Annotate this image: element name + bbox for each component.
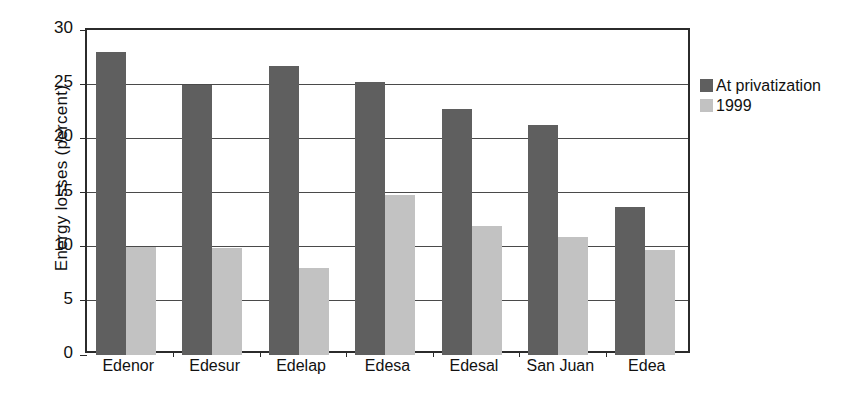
y-axis-tick-label: 30 [29, 19, 73, 36]
bar-edesur-at-privatization [182, 85, 212, 355]
bar-edesal-at-privatization [442, 109, 472, 355]
gridline [87, 138, 688, 139]
bar-edelap-1999 [299, 268, 329, 355]
bar-edelap-at-privatization [269, 66, 299, 355]
x-axis-tick [173, 351, 174, 357]
legend-label-1999: 1999 [716, 98, 752, 114]
bar-edenor-at-privatization [96, 52, 126, 355]
x-axis-tick [606, 351, 607, 357]
plot-area [85, 28, 690, 353]
bar-edesur-1999 [212, 248, 242, 355]
y-axis-tick-label: 25 [29, 73, 73, 90]
y-axis-tick-label: 15 [29, 182, 73, 199]
y-axis-tick [80, 355, 87, 356]
gridline [87, 84, 688, 85]
y-axis-tick [80, 30, 87, 31]
y-axis-tick [80, 138, 87, 139]
light-gray-swatch-icon [700, 99, 713, 112]
y-axis-tick [80, 300, 87, 301]
y-axis-tick-label: 10 [29, 236, 73, 253]
y-axis-tick-label: 5 [29, 290, 73, 307]
dark-gray-swatch-icon [700, 79, 713, 92]
legend-item-1999: 1999 [700, 96, 821, 115]
legend-item-at-privatization: At privatization [700, 76, 821, 95]
bar-edenor-1999 [126, 247, 156, 355]
x-axis-tick [260, 351, 261, 357]
bar-edesa-1999 [385, 195, 415, 355]
chart-legend: At privatization 1999 [700, 76, 821, 116]
x-axis-tick [346, 351, 347, 357]
bar-chart-figure: Energy losses (percent) At privatization… [0, 0, 855, 396]
plot-inner [87, 30, 688, 351]
bar-edea-at-privatization [615, 207, 645, 355]
bar-edesal-1999 [472, 226, 502, 355]
bar-edesa-at-privatization [355, 82, 385, 355]
legend-label-at-privatization: At privatization [716, 78, 821, 94]
y-axis-tick-label: 0 [29, 344, 73, 361]
y-axis-tick [80, 192, 87, 193]
y-axis-tick-label: 20 [29, 127, 73, 144]
x-axis-tick [433, 351, 434, 357]
x-axis-tick [519, 351, 520, 357]
bar-san-juan-1999 [558, 237, 588, 355]
x-axis-label-edea: Edea [587, 358, 707, 374]
bar-san-juan-at-privatization [528, 125, 558, 355]
bar-edea-1999 [645, 250, 675, 355]
gridline [87, 192, 688, 193]
y-axis-tick [80, 246, 87, 247]
y-axis-tick [80, 84, 87, 85]
